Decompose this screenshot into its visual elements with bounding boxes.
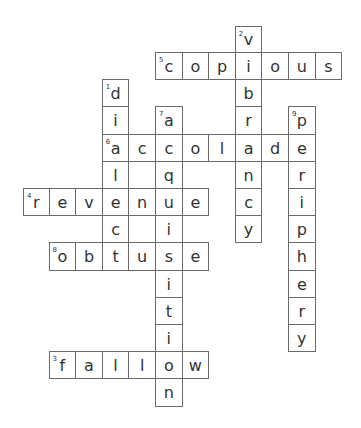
cell-letter: c: [164, 141, 173, 157]
crossword-cell[interactable]: i: [235, 52, 263, 80]
crossword-cell[interactable]: 1d: [102, 79, 130, 107]
cell-letter: n: [244, 168, 254, 184]
cell-letter: o: [190, 141, 200, 157]
crossword-cell[interactable]: b: [75, 242, 103, 270]
cell-letter: a: [164, 113, 174, 129]
crossword-cell[interactable]: 4r: [23, 188, 50, 216]
crossword-cell[interactable]: e: [288, 134, 316, 162]
cell-letter: a: [244, 141, 254, 157]
cell-letter: l: [220, 141, 224, 157]
cell-letter: o: [190, 59, 200, 75]
cell-letter: v: [84, 195, 93, 211]
crossword-cell[interactable]: i: [155, 270, 183, 298]
crossword-cell[interactable]: q: [155, 161, 183, 189]
crossword-cell[interactable]: a: [235, 134, 263, 162]
clue-number: 4: [27, 193, 31, 200]
cell-letter: i: [113, 113, 117, 129]
crossword-cell[interactable]: i: [155, 324, 183, 352]
crossword-cell[interactable]: y: [235, 215, 263, 243]
cell-letter: o: [57, 249, 67, 265]
crossword-cell[interactable]: 5c: [155, 52, 183, 80]
crossword-cell[interactable]: n: [235, 161, 263, 189]
crossword-cell[interactable]: h: [288, 242, 316, 270]
cell-letter: w: [189, 358, 202, 374]
crossword-cell[interactable]: u: [288, 52, 316, 80]
crossword-cell[interactable]: r: [288, 297, 316, 325]
crossword-cell[interactable]: c: [155, 134, 183, 162]
cell-letter: i: [167, 277, 171, 293]
crossword-cell[interactable]: t: [102, 242, 130, 270]
cell-letter: p: [217, 59, 227, 75]
cell-letter: y: [297, 331, 306, 347]
cell-letter: f: [60, 358, 66, 374]
cell-letter: e: [297, 141, 307, 157]
crossword-cell[interactable]: e: [182, 242, 210, 270]
cell-letter: e: [57, 195, 67, 211]
crossword-cell[interactable]: i: [102, 106, 130, 134]
crossword-cell[interactable]: i: [288, 188, 316, 216]
crossword-cell[interactable]: e: [49, 188, 77, 216]
crossword-cell[interactable]: c: [235, 188, 263, 216]
crossword-cell[interactable]: 9p: [288, 106, 316, 134]
crossword-cell[interactable]: d: [261, 134, 289, 162]
crossword-cell[interactable]: n: [155, 378, 183, 406]
cell-letter: u: [164, 195, 174, 211]
clue-number: 5: [159, 57, 163, 64]
crossword-cell[interactable]: c: [102, 215, 130, 243]
cell-letter: d: [270, 141, 280, 157]
crossword-cell[interactable]: 2v: [235, 26, 263, 53]
crossword-cell[interactable]: o: [155, 351, 183, 379]
crossword-cell[interactable]: a: [75, 351, 103, 379]
crossword-cell[interactable]: w: [182, 351, 210, 379]
cell-letter: b: [244, 86, 254, 102]
cell-letter: r: [299, 168, 306, 184]
crossword-cell[interactable]: l: [208, 134, 236, 162]
cell-letter: r: [245, 113, 252, 129]
cell-letter: s: [324, 59, 332, 75]
cell-letter: d: [111, 86, 121, 102]
cell-letter: e: [190, 195, 200, 211]
crossword-cell[interactable]: e: [288, 270, 316, 298]
cell-letter: l: [140, 358, 144, 374]
crossword-cell[interactable]: 6a: [102, 134, 130, 162]
crossword-cell[interactable]: y: [288, 324, 316, 352]
crossword-cell[interactable]: s: [155, 242, 183, 270]
cell-letter: i: [167, 222, 171, 238]
cell-letter: v: [244, 32, 253, 48]
crossword-cell[interactable]: i: [155, 215, 183, 243]
crossword-cell[interactable]: e: [182, 188, 210, 216]
cell-letter: p: [297, 113, 307, 129]
cell-letter: n: [164, 385, 174, 401]
clue-number: 3: [53, 356, 57, 363]
crossword-cell[interactable]: s: [315, 52, 343, 80]
cell-letter: a: [84, 358, 94, 374]
crossword-cell[interactable]: u: [128, 242, 156, 270]
crossword-cell[interactable]: c: [128, 134, 156, 162]
crossword-cell[interactable]: 7a: [155, 106, 183, 134]
crossword-cell[interactable]: r: [235, 106, 263, 134]
crossword-cell[interactable]: l: [102, 351, 130, 379]
cell-letter: u: [137, 249, 147, 265]
crossword-cell[interactable]: p: [288, 215, 316, 243]
crossword-cell[interactable]: l: [128, 351, 156, 379]
crossword-cell[interactable]: v: [75, 188, 103, 216]
cell-letter: q: [164, 168, 174, 184]
crossword-cell[interactable]: n: [128, 188, 156, 216]
crossword-cell[interactable]: 8o: [49, 242, 77, 270]
crossword-cell[interactable]: o: [182, 134, 210, 162]
crossword-cell[interactable]: l: [102, 161, 130, 189]
crossword-cell[interactable]: p: [208, 52, 236, 80]
crossword-cell[interactable]: r: [288, 161, 316, 189]
crossword-cell[interactable]: e: [102, 188, 130, 216]
crossword-cell[interactable]: o: [182, 52, 210, 80]
cell-letter: l: [113, 358, 117, 374]
cell-letter: e: [190, 249, 200, 265]
crossword-cell[interactable]: o: [261, 52, 289, 80]
cell-letter: s: [165, 249, 173, 265]
crossword-cell[interactable]: u: [155, 188, 183, 216]
crossword-cell[interactable]: b: [235, 79, 263, 107]
cell-letter: e: [111, 195, 121, 211]
crossword-cell[interactable]: 3f: [49, 351, 77, 379]
crossword-cell[interactable]: t: [155, 297, 183, 325]
crossword-grid: 1di6alect2vibrancy3fallow4revnue5copousc…: [0, 0, 361, 428]
